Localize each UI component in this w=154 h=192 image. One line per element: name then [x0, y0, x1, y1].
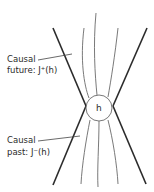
causal-structure-diagram: h Causal future: J⁺(h) Causal past: J⁻(h… — [0, 0, 154, 192]
causal-future-label-line1: Causal — [7, 54, 36, 64]
worldline-3 — [108, 28, 118, 97]
worldline-2-lower — [98, 121, 99, 187]
worldline-1-lower — [81, 120, 90, 184]
light-cone-right-upper — [113, 28, 147, 106]
worldline-3-lower — [108, 120, 118, 184]
worldline-2 — [94, 13, 97, 95]
worldline-1 — [82, 28, 89, 98]
light-cone-left-lower — [53, 106, 86, 185]
causal-past-leader — [38, 136, 80, 141]
causal-future-label-line2: future: J⁺(h) — [7, 65, 57, 75]
region-h-label: h — [96, 103, 102, 113]
causal-past-label-line1: Causal — [7, 135, 36, 145]
light-cone-right-lower — [113, 106, 146, 184]
light-cone-left-upper — [53, 28, 86, 106]
causal-past-label-line2: past: J⁻(h) — [7, 147, 50, 157]
